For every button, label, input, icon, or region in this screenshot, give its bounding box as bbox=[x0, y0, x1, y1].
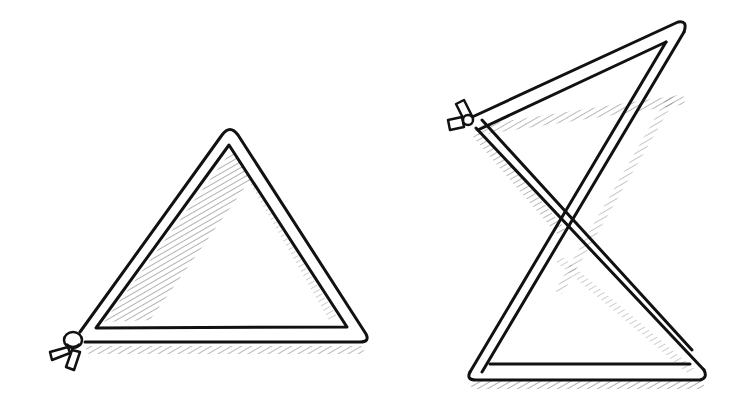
twisted-hourglass-frame bbox=[469, 22, 705, 385]
knot-icon bbox=[448, 100, 473, 130]
rod-frames-drawing bbox=[0, 0, 747, 415]
flat-triangle-frame bbox=[80, 130, 367, 351]
illustration-canvas bbox=[0, 0, 747, 415]
knot-icon bbox=[50, 332, 82, 370]
